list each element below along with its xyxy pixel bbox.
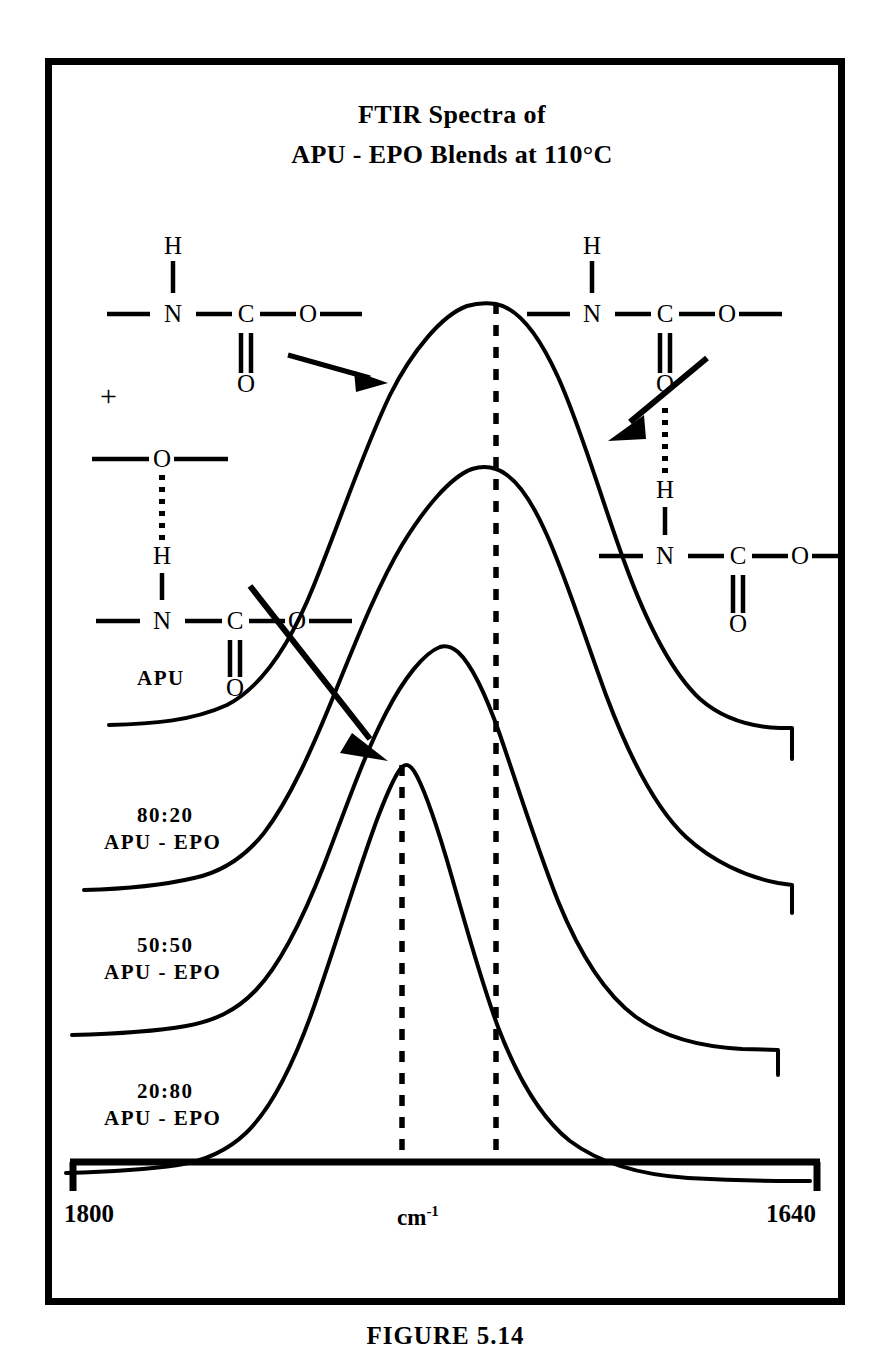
x-axis	[70, 1162, 820, 1191]
curve-label-2080-name: APU - EPO	[104, 1105, 221, 1132]
figure-caption: FIGURE 5.14	[0, 1322, 891, 1347]
curve-label-5050-name: APU - EPO	[104, 959, 221, 986]
chem-label-right-n-top: N	[579, 301, 605, 327]
curve-label-2080-ratio: 20:80	[137, 1078, 221, 1105]
axis-label-right: 1640	[766, 1200, 816, 1228]
axis-unit-exponent: -1	[426, 1203, 439, 1219]
curve-label-apu: APU	[137, 665, 185, 692]
chem-label-right-o-top: O	[714, 301, 740, 327]
curve-label-8020-name: APU - EPO	[104, 829, 221, 856]
curve-label-2080: 20:80 APU - EPO	[137, 1078, 221, 1132]
chem-structure-left-bottom-bonds	[92, 459, 352, 677]
figure-root: FTIR Spectra of APU - EPO Blends at 110°…	[0, 0, 891, 1347]
chem-label-right-n-bot: N	[652, 543, 678, 569]
chem-label-left-bottom-c: C	[222, 608, 248, 634]
chem-label-left-bottom-o-right: O	[284, 608, 310, 634]
chem-label-left-bottom-n: N	[149, 608, 175, 634]
chem-label-left-bottom-h: H	[149, 543, 175, 569]
chem-label-right-h-top: H	[579, 233, 605, 259]
trace-5050	[72, 646, 778, 1075]
chem-label-right-o-bot-down: O	[725, 611, 751, 637]
chem-label-left-bottom-o-top: O	[149, 446, 175, 472]
chem-label-left-bottom-o-bottom: O	[222, 675, 248, 701]
curve-label-5050-ratio: 50:50	[137, 932, 221, 959]
figure-frame: FTIR Spectra of APU - EPO Blends at 110°…	[45, 58, 845, 1305]
curve-label-8020: 80:20 APU - EPO	[137, 802, 221, 856]
chem-label-left-top-n: N	[160, 301, 186, 327]
axis-unit-base: cm	[397, 1205, 426, 1230]
chem-label-left-top-o-right: O	[295, 301, 321, 327]
chem-label-left-top-c: C	[233, 301, 259, 327]
axis-label-left: 1800	[64, 1200, 114, 1228]
chem-label-left-top-o-bottom: O	[233, 371, 259, 397]
chem-label-right-o-bot-right: O	[787, 543, 813, 569]
spectra-plot: H N C O O + O H N C O O H N C O O H N C …	[52, 65, 838, 1298]
arrow-free-carbonyl	[288, 355, 388, 392]
chem-label-right-h-mid: H	[652, 477, 678, 503]
dashed-reference-lines	[402, 303, 496, 1162]
curve-label-5050: 50:50 APU - EPO	[137, 932, 221, 986]
axis-unit-label: cm-1	[397, 1203, 439, 1231]
chem-label-right-o-mid: O	[652, 371, 678, 397]
chem-label-plus: +	[100, 381, 117, 411]
curve-label-8020-ratio: 80:20	[137, 802, 221, 829]
chem-label-right-c-bot: C	[725, 543, 751, 569]
chem-label-left-top-h: H	[160, 233, 186, 259]
chem-label-right-c-top: C	[652, 301, 678, 327]
curve-label-apu-text: APU	[137, 665, 185, 692]
